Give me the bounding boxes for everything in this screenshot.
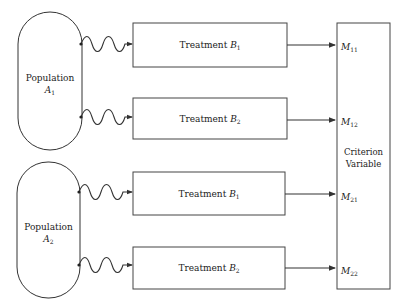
treatment-label-3: Treatment B1	[133, 188, 285, 203]
wavy-arrow-icon	[81, 37, 132, 52]
measure-m11: M11	[341, 41, 358, 56]
wavy-arrow-icon	[79, 258, 132, 273]
treatment-label-1: Treatment B1	[133, 39, 287, 54]
treatment-label-2: Treatment B2	[133, 113, 287, 128]
measure-m22: M22	[341, 265, 358, 280]
wavy-arrow-icon	[81, 110, 132, 125]
wavy-arrow-icon	[79, 185, 132, 200]
treatment-label-4: Treatment B2	[133, 262, 285, 277]
measure-m21: M21	[341, 191, 358, 206]
measure-m12: M12	[341, 116, 358, 131]
population-a2-label: Population A2	[17, 221, 80, 248]
criterion-label: Criterion Variable	[337, 146, 390, 170]
population-a1-label: Population A1	[18, 72, 82, 99]
